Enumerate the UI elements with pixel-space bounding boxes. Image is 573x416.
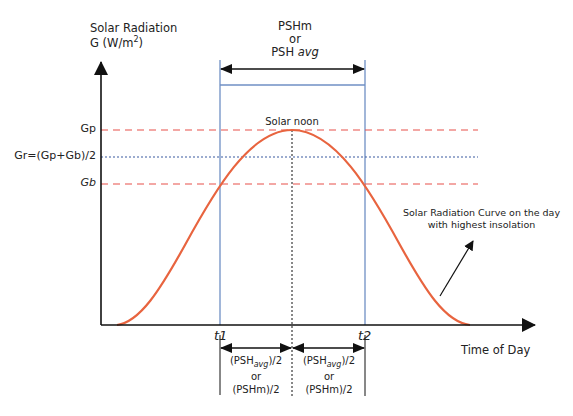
x-axis-title: Time of Day — [461, 343, 530, 357]
gb-label: Gb — [0, 176, 96, 190]
curve-annotation-arrow — [440, 241, 473, 296]
half-span-left-label: (PSHavg)/2 or (PSHm)/2 — [222, 354, 290, 396]
y-axis-title-line2: G (W/m2) — [90, 35, 177, 50]
psh-span-label: PSHm or PSH avg — [250, 20, 340, 60]
half-span-right-label: (PSHavg)/2 or (PSHm)/2 — [295, 354, 363, 396]
solar-noon-label: Solar noon — [252, 116, 332, 129]
curve-annotation-text: Solar Radiation Curve on the day with hi… — [390, 207, 573, 231]
gr-label: Gr=(Gp+Gb)/2 — [0, 149, 96, 163]
psh-window-lines — [220, 60, 365, 325]
t2-label: t2 — [358, 328, 371, 344]
t1-label: t1 — [214, 328, 227, 344]
y-axis-title-line1: Solar Radiation — [90, 21, 177, 35]
gp-label: Gp — [0, 122, 96, 136]
y-axis-title: Solar Radiation G (W/m2) — [90, 21, 177, 51]
